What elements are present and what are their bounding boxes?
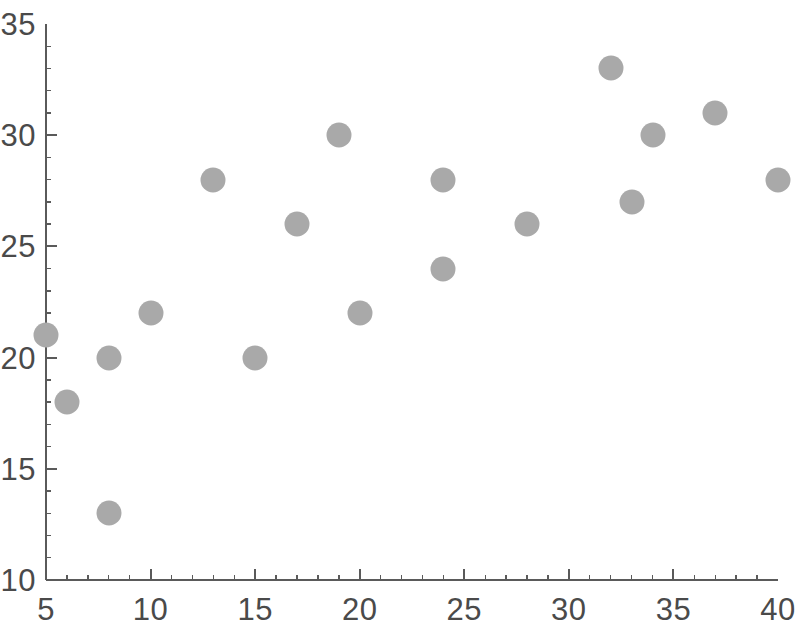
plot-area: 101520253035 510152025303540 xyxy=(0,0,795,624)
scatter-point xyxy=(347,301,372,326)
x-axis-tick-label: 20 xyxy=(342,594,377,624)
y-axis-tick-label: 10 xyxy=(1,565,36,596)
scatter-point xyxy=(96,501,121,526)
y-axis-tick-label: 30 xyxy=(1,120,36,151)
scatter-point xyxy=(34,323,59,348)
scatter-point xyxy=(640,123,665,148)
x-axis-tick-label: 35 xyxy=(656,594,691,624)
y-axis-tick-label: 25 xyxy=(1,231,36,262)
scatter-point xyxy=(431,256,456,281)
scatter-point xyxy=(96,345,121,370)
scatter-point xyxy=(598,56,623,81)
x-axis-tick-label: 5 xyxy=(37,594,55,624)
x-axis-tick-label: 40 xyxy=(760,594,795,624)
scatter-point xyxy=(243,345,268,370)
y-axis-tick-label: 35 xyxy=(1,9,36,40)
scatter-point xyxy=(431,167,456,192)
x-axis-tick-label: 10 xyxy=(133,594,168,624)
x-axis-tick-label: 30 xyxy=(551,594,586,624)
scatter-point xyxy=(201,167,226,192)
scatter-point xyxy=(138,301,163,326)
x-axis-tick-label: 15 xyxy=(237,594,272,624)
scatter-point xyxy=(326,123,351,148)
x-axis-tick-label: 25 xyxy=(447,594,482,624)
y-axis-tick-label: 20 xyxy=(1,342,36,373)
scatter-point xyxy=(766,167,791,192)
scatter-point xyxy=(284,212,309,237)
scatter-point xyxy=(703,100,728,125)
axes-lines xyxy=(0,0,795,624)
y-axis-tick-label: 15 xyxy=(1,453,36,484)
scatter-point xyxy=(619,189,644,214)
scatter-plot-figure: 101520253035 510152025303540 xyxy=(0,0,795,624)
scatter-point xyxy=(515,212,540,237)
scatter-point xyxy=(54,390,79,415)
